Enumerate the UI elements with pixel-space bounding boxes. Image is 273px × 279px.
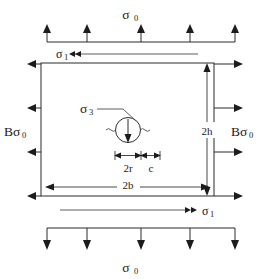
left-load-group: B σ 0 xyxy=(4,60,41,200)
sigma-1-bottom-label: σ xyxy=(202,204,209,218)
left-arrow-1 xyxy=(27,60,41,68)
sigma-0-bottom-subscript: 0 xyxy=(134,266,138,276)
arrow-up-icon xyxy=(83,24,91,33)
bottom-arrow-1 xyxy=(43,228,51,250)
dimension-2b-label: 2b xyxy=(123,179,135,191)
sigma-1-top-group: σ 1 xyxy=(56,47,198,62)
arrow-up-icon xyxy=(231,24,239,33)
sigma-1-top-label: σ xyxy=(56,47,63,61)
left-arrow-2 xyxy=(27,104,41,112)
arrow-down-icon xyxy=(43,240,51,250)
arrow-up-icon xyxy=(204,63,211,72)
right-load-group: B σ 0 xyxy=(214,60,253,200)
hole-left-squiggle-icon xyxy=(106,129,116,132)
arrow-up-icon xyxy=(43,24,51,33)
top-arrow-5 xyxy=(231,24,239,42)
hole-group xyxy=(106,118,150,144)
top-arrow-1 xyxy=(43,24,51,42)
arrow-left-icon xyxy=(27,192,36,200)
top-arrow-3 xyxy=(137,24,145,42)
sigma-0-top-subscript: 0 xyxy=(134,13,138,23)
arrow-right-icon xyxy=(234,148,243,156)
arrow-up-icon xyxy=(137,24,145,33)
b-sigma-0-right-label: σ xyxy=(240,124,248,139)
arrow-right-icon xyxy=(234,60,243,68)
sigma-3-subscript: 3 xyxy=(89,107,93,117)
b-sigma-0-left-label: σ xyxy=(13,124,21,139)
arrow-down-icon xyxy=(186,240,194,250)
right-arrow-2 xyxy=(214,104,243,112)
sigma-1-bottom-subscript: 1 xyxy=(210,209,214,219)
dimension-2b-group: 2b xyxy=(45,178,210,193)
sigma-3-leader-line xyxy=(97,109,136,121)
arrow-down-icon xyxy=(137,240,145,250)
figure-canvas: σ 0 xyxy=(0,0,273,279)
top-arrow-2 xyxy=(83,24,91,42)
top-load-group xyxy=(43,24,239,42)
arrow-down-icon xyxy=(83,240,91,250)
dimension-2h-group: 2h xyxy=(196,63,218,196)
sigma-0-top-label: σ xyxy=(122,7,130,22)
arrow-left-icon xyxy=(27,104,36,112)
right-arrow-1 xyxy=(214,60,243,68)
arrow-right-icon xyxy=(234,192,243,200)
arrow-up-icon xyxy=(186,24,194,33)
arrow-left-icon xyxy=(69,51,75,57)
sigma-0-bottom-label: σ xyxy=(122,260,130,275)
bottom-load-group xyxy=(43,228,239,250)
left-arrow-3 xyxy=(27,148,41,156)
arrow-left-icon xyxy=(27,60,36,68)
stress-diagram-figure: σ 0 xyxy=(0,0,273,279)
left-arrow-4 xyxy=(27,192,41,200)
sigma-1-bottom-group: σ 1 xyxy=(60,204,214,219)
dimension-2r-c-group: 2r c xyxy=(114,151,161,174)
dimension-2r-label: 2r xyxy=(123,162,133,174)
right-arrow-3 xyxy=(214,148,243,156)
right-arrow-4 xyxy=(214,192,243,200)
arrow-left-icon xyxy=(27,148,36,156)
sigma-0-bottom-label-group: σ 0 xyxy=(122,260,138,276)
top-arrow-4 xyxy=(186,24,194,42)
arrow-down-in-hole-icon xyxy=(125,134,132,143)
arrow-left-icon xyxy=(45,184,54,191)
arrow-right-icon xyxy=(191,207,197,213)
bottom-arrow-5 xyxy=(231,228,239,250)
sigma-3-label: σ xyxy=(80,101,88,116)
b-sigma-0-right-prefix: B xyxy=(231,124,240,139)
bottom-arrow-2 xyxy=(83,228,91,250)
bottom-arrow-3 xyxy=(137,228,145,250)
dimension-c-label: c xyxy=(149,162,154,174)
hole-right-squiggle-icon xyxy=(140,129,150,132)
b-sigma-0-left-subscript: 0 xyxy=(22,130,26,140)
b-sigma-0-left-prefix: B xyxy=(4,124,13,139)
sigma-1-top-subscript: 1 xyxy=(64,52,68,62)
sigma-0-top-label-group: σ 0 xyxy=(122,7,138,23)
dimension-2h-label: 2h xyxy=(202,125,214,137)
arrow-right-icon xyxy=(185,207,191,213)
b-sigma-0-right-subscript: 0 xyxy=(249,130,253,140)
bottom-arrow-4 xyxy=(186,228,194,250)
arrow-down-icon xyxy=(231,240,239,250)
arrow-right-icon xyxy=(234,104,243,112)
arrow-left-icon xyxy=(75,51,81,57)
